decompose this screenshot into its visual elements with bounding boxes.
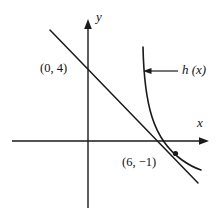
graph-figure: x y (0, 4) (6, −1) h (x) bbox=[0, 0, 219, 217]
x-axis-arrowhead bbox=[199, 137, 209, 145]
intersection-point-marker bbox=[173, 151, 178, 156]
y-axis bbox=[84, 19, 92, 208]
y-axis-arrowhead bbox=[84, 19, 92, 29]
x-axis bbox=[12, 137, 209, 145]
function-leader-arrow bbox=[143, 68, 178, 74]
y-intercept-label: (0, 4) bbox=[40, 62, 67, 75]
intersection-point-label: (6, −1) bbox=[122, 156, 156, 169]
x-axis-label: x bbox=[197, 116, 203, 129]
function-name-label: h (x) bbox=[182, 63, 206, 76]
plot-canvas bbox=[0, 0, 219, 217]
y-axis-label: y bbox=[96, 10, 102, 23]
